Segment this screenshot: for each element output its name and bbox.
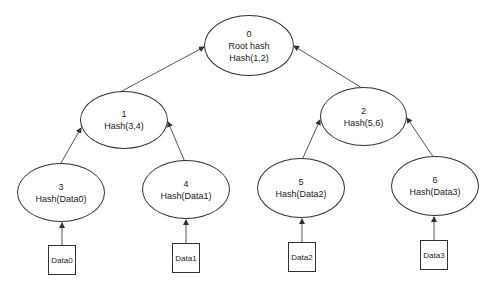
data-block-0-label: Data0 <box>51 256 72 265</box>
node-0-hash: Hash(1,2) <box>229 52 269 64</box>
node-5-id: 5 <box>298 176 303 188</box>
node-3: 3 Hash(Data0) <box>17 163 105 222</box>
node-2-hash: Hash(5,6) <box>344 117 384 129</box>
node-1-hash: Hash(3,4) <box>104 120 144 132</box>
edge-4-to-1 <box>168 122 185 162</box>
edge-2-to-0 <box>294 46 362 88</box>
edge-1-to-0 <box>122 47 204 91</box>
node-5-hash: Hash(Data2) <box>275 188 326 200</box>
node-0-id: 0 <box>246 28 251 40</box>
node-6-hash: Hash(Data3) <box>409 186 460 198</box>
node-0-title: Root hash <box>228 40 269 52</box>
data-block-3-label: Data3 <box>423 251 444 260</box>
data-block-2-label: Data2 <box>291 253 312 262</box>
node-3-id: 3 <box>58 181 63 193</box>
edge-3-to-1 <box>61 128 81 163</box>
data-block-1-label: Data1 <box>175 254 196 263</box>
node-2: 2 Hash(5,6) <box>320 87 407 146</box>
node-4: 4 Hash(Data1) <box>142 160 230 219</box>
data-block-3: Data3 <box>420 240 448 270</box>
node-1-id: 1 <box>121 108 126 120</box>
node-3-hash: Hash(Data0) <box>35 193 86 205</box>
node-4-id: 4 <box>183 178 188 190</box>
data-block-1: Data1 <box>172 243 200 273</box>
merkle-tree-diagram: 0 Root hash Hash(1,2) 1 Hash(3,4) 2 Hash… <box>0 0 492 287</box>
node-0-root-hash: 0 Root hash Hash(1,2) <box>204 15 294 76</box>
node-6: 6 Hash(Data3) <box>391 156 479 216</box>
data-block-0: Data0 <box>48 245 76 275</box>
node-4-hash: Hash(Data1) <box>160 190 211 202</box>
node-6-id: 6 <box>432 174 437 186</box>
edge-6-to-2 <box>407 118 434 158</box>
node-1: 1 Hash(3,4) <box>80 91 168 149</box>
node-5: 5 Hash(Data2) <box>257 158 345 218</box>
node-2-id: 2 <box>361 105 366 117</box>
edge-5-to-2 <box>302 120 320 160</box>
data-block-2: Data2 <box>288 242 316 272</box>
